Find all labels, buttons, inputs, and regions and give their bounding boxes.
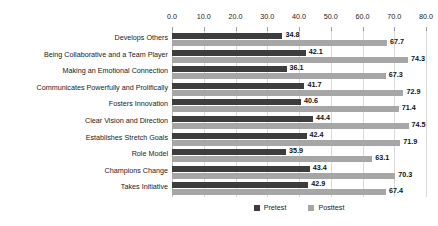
bar-pretest <box>172 33 282 39</box>
bar-value-label-pretest: 36.1 <box>290 65 304 71</box>
bar-pretest <box>172 116 313 122</box>
category-label: Champions Change <box>104 167 168 175</box>
bar-posttest <box>172 140 400 146</box>
x-axis: 0.010.020.030.040.050.060.070.080.0 <box>172 12 426 31</box>
bar-row: 41.772.9 <box>172 82 426 99</box>
bar-value-label-posttest: 74.3 <box>411 56 425 62</box>
bar-posttest <box>172 123 409 129</box>
bar-pretest <box>172 133 307 139</box>
category-label: Fosters Innovation <box>109 100 168 108</box>
x-tick-label: 70.0 <box>387 12 401 21</box>
bar-value-label-posttest: 63.1 <box>375 155 389 161</box>
bar-value-label-posttest: 67.3 <box>389 72 403 78</box>
x-tick-label: 10.0 <box>197 12 211 21</box>
legend-item[interactable]: Pretest <box>254 203 287 212</box>
bar-value-label-posttest: 74.5 <box>412 122 426 128</box>
bar-value-label-pretest: 35.9 <box>289 148 303 154</box>
bar-pretest <box>172 50 306 56</box>
x-tick-label: 30.0 <box>260 12 274 21</box>
bar-value-label-posttest: 70.3 <box>398 172 412 178</box>
bar-value-label-posttest: 67.7 <box>390 39 404 45</box>
bar-value-label-pretest: 42.4 <box>310 132 324 138</box>
bar-value-label-posttest: 67.4 <box>389 188 403 194</box>
plot-area: 34.867.742.174.336.167.341.772.940.671.4… <box>172 31 426 197</box>
bar-posttest <box>172 156 372 162</box>
chart-legend: PretestPosttest <box>172 203 426 212</box>
bar-chart: 0.010.020.030.040.050.060.070.080.0 Deve… <box>0 0 438 226</box>
legend-label: Pretest <box>264 203 287 212</box>
bar-value-label-pretest: 44.4 <box>316 115 330 121</box>
category-label: Takes Initiative <box>121 183 168 191</box>
x-tick-label: 60.0 <box>356 12 370 21</box>
x-tick-label: 80.0 <box>419 12 433 21</box>
bar-posttest <box>172 173 395 179</box>
bar-pretest <box>172 99 301 105</box>
category-label: Develops Others <box>114 34 168 42</box>
x-tick-label: 20.0 <box>229 12 243 21</box>
bar-row: 43.470.3 <box>172 165 426 182</box>
bar-posttest <box>172 106 399 112</box>
bar-pretest <box>172 66 287 72</box>
category-axis: Develops OthersBeing Collaborative and a… <box>0 31 168 197</box>
bar-row: 35.963.1 <box>172 148 426 165</box>
bar-posttest <box>172 189 386 195</box>
bar-row: 34.867.7 <box>172 32 426 49</box>
bar-rows: 34.867.742.174.336.167.341.772.940.671.4… <box>172 31 426 197</box>
legend-label: Posttest <box>318 203 344 212</box>
bar-value-label-pretest: 43.4 <box>313 165 327 171</box>
bar-posttest <box>172 57 408 63</box>
bar-value-label-pretest: 41.7 <box>307 82 321 88</box>
legend-swatch-icon <box>308 205 314 211</box>
bar-value-label-posttest: 71.9 <box>403 139 417 145</box>
category-label: Establishes Stretch Goals <box>86 134 168 142</box>
bar-row: 42.967.4 <box>172 181 426 198</box>
bar-pretest <box>172 149 286 155</box>
category-label: Being Collaborative and a Team Player <box>44 51 168 59</box>
category-label: Making an Emotional Connection <box>63 67 168 75</box>
bar-value-label-posttest: 71.4 <box>402 105 416 111</box>
bar-posttest <box>172 40 387 46</box>
bar-posttest <box>172 73 386 79</box>
x-tick-label: 0.0 <box>167 12 177 21</box>
bar-row: 36.167.3 <box>172 65 426 82</box>
bar-value-label-posttest: 72.9 <box>406 89 420 95</box>
bar-value-label-pretest: 34.8 <box>285 32 299 38</box>
bar-posttest <box>172 90 403 96</box>
bar-value-label-pretest: 40.6 <box>304 98 318 104</box>
bar-pretest <box>172 83 304 89</box>
legend-swatch-icon <box>254 205 260 211</box>
category-label: Clear Vision and Direction <box>85 117 168 125</box>
bar-row: 44.474.5 <box>172 115 426 132</box>
x-tick-label: 40.0 <box>292 12 306 21</box>
category-label: Role Model <box>132 150 168 158</box>
bar-value-label-pretest: 42.9 <box>311 181 325 187</box>
legend-item[interactable]: Posttest <box>308 203 344 212</box>
x-tick-label: 50.0 <box>324 12 338 21</box>
bar-pretest <box>172 182 308 188</box>
bar-pretest <box>172 166 310 172</box>
bar-value-label-pretest: 42.1 <box>309 49 323 55</box>
category-label: Communicates Powerfully and Prolifically <box>37 84 168 92</box>
gridline <box>426 31 427 197</box>
bar-row: 40.671.4 <box>172 98 426 115</box>
